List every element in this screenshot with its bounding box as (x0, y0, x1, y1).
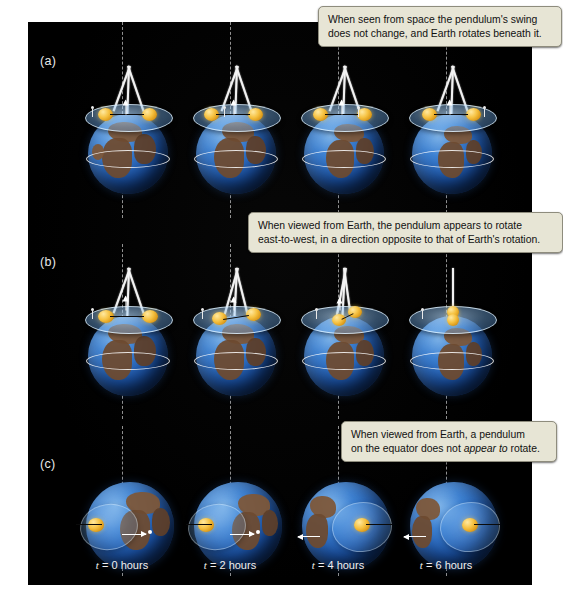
pendulum-bob (198, 518, 214, 532)
callout-line-2-post: rotate. (508, 443, 540, 454)
callout-line-2: east-to-west, in a direction opposite to… (258, 233, 554, 247)
time-label-t0: t = 0 hours (96, 559, 148, 571)
callout-space-view: When seen from space the pendulum's swin… (318, 6, 562, 47)
pendulum-bob (248, 108, 263, 121)
equator-ring (302, 352, 386, 370)
pendulum-bob (142, 310, 158, 323)
swing-axis-line (110, 316, 144, 317)
figure-canvas: (a) (b) (c) (28, 22, 532, 585)
scene-b-t4 (296, 254, 392, 414)
swing-axis-line (76, 524, 102, 525)
pendulum-bob (332, 314, 346, 326)
swing-axis-line (110, 114, 144, 115)
callout-line-2: does not change, and Earth rotates benea… (328, 27, 553, 41)
time-variable: t (312, 559, 315, 571)
figure-body (422, 311, 424, 319)
figure-panel: (a) (b) (c) (28, 22, 532, 585)
equator-ring (410, 352, 494, 370)
time-label-text: = 6 hours (426, 559, 472, 571)
landmass (412, 516, 432, 548)
figure-body (358, 109, 360, 117)
time-variable: t (96, 559, 99, 571)
scene-a-t0 (80, 52, 176, 212)
motion-arrow (126, 297, 127, 311)
motion-arrow (340, 299, 341, 311)
swing-axis-line (186, 524, 212, 525)
platform-disc (193, 306, 281, 334)
callout-line-2-pre: on the equator does not (351, 443, 464, 454)
pendulum-bob (466, 108, 481, 121)
motion-arrow (234, 101, 235, 115)
equator-ring (194, 150, 278, 168)
pendulum-bob (462, 518, 478, 532)
time-label-text: = 2 hours (210, 559, 256, 571)
time-label-t6: t = 6 hours (420, 559, 472, 571)
scene-a-t2 (188, 52, 284, 212)
reference-dot (256, 530, 260, 534)
motion-arrow (230, 534, 254, 535)
swing-axis-line (474, 524, 500, 525)
scene-b-t0 (80, 254, 176, 414)
callout-line-2: on the equator does not appear to rotate… (351, 442, 548, 456)
pendulum-bob (447, 314, 459, 326)
motion-arrow (126, 101, 127, 115)
pendulum-bob (88, 518, 104, 532)
motion-arrow (234, 298, 235, 311)
pendulum-bob (357, 108, 372, 121)
scene-a-t4 (296, 52, 392, 212)
swing-axis-line (434, 114, 468, 115)
reference-dot (148, 530, 152, 534)
motion-arrow (450, 101, 451, 115)
equator-ring (194, 352, 278, 370)
scene-b-t6 (404, 254, 500, 414)
figure-body (484, 109, 486, 117)
pendulum-bob (142, 108, 157, 121)
motion-arrow (122, 534, 146, 535)
time-label-t2: t = 2 hours (204, 559, 256, 571)
time-label-text: = 0 hours (102, 559, 148, 571)
figure-body (202, 311, 204, 319)
equator-ring (302, 150, 386, 168)
landmass (262, 510, 278, 536)
equator-ring (86, 150, 170, 168)
callout-line-1: When viewed from Earth, the pendulum app… (258, 219, 554, 233)
callout-earth-pole-view: When viewed from Earth, the pendulum app… (248, 212, 563, 253)
scene-b-t2 (188, 254, 284, 414)
callout-line-1: When viewed from Earth, a pendulum (351, 428, 548, 442)
row-label-a: (a) (40, 54, 56, 68)
row-label-b: (b) (40, 255, 56, 269)
time-variable: t (420, 559, 423, 571)
landmass (152, 508, 170, 536)
platform-disc (85, 306, 173, 334)
figure-body (224, 109, 226, 117)
figure-body (92, 311, 94, 319)
time-variable: t (204, 559, 207, 571)
time-label-text: = 4 hours (318, 559, 364, 571)
row-label-c: (c) (40, 457, 55, 471)
time-label-t4: t = 4 hours (312, 559, 364, 571)
pendulum-bob (354, 518, 370, 532)
pendulum-bob (348, 306, 362, 318)
callout-equator-view: When viewed from Earth, a pendulum on th… (341, 421, 557, 462)
motion-arrow (404, 536, 426, 537)
figure-body (92, 109, 94, 117)
equator-ring (410, 150, 494, 168)
swing-axis-line (366, 524, 392, 525)
landmass (306, 514, 328, 548)
callout-line-1: When seen from space the pendulum's swin… (328, 13, 553, 27)
scene-a-t6 (404, 52, 500, 212)
figure-body (316, 311, 318, 319)
callout-line-2-emphasis: appear to (464, 443, 508, 454)
motion-arrow (342, 101, 343, 115)
motion-arrow (298, 536, 320, 537)
equator-ring (86, 352, 170, 370)
